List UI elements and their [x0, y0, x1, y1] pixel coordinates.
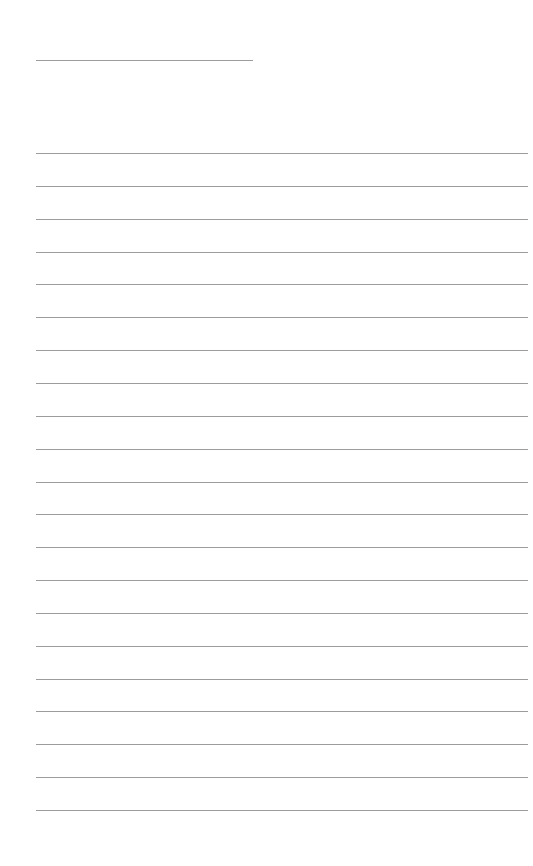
ruled-line: [36, 252, 528, 253]
ruled-line: [36, 153, 528, 154]
ruled-line: [36, 449, 528, 450]
ruled-line: [36, 186, 528, 187]
ruled-line: [36, 514, 528, 515]
ruled-line: [36, 383, 528, 384]
ruled-line: [36, 482, 528, 483]
ruled-line: [36, 580, 528, 581]
ruled-line: [36, 744, 528, 745]
ruled-line: [36, 810, 528, 811]
ruled-line: [36, 777, 528, 778]
ruled-line: [36, 284, 528, 285]
ruled-line: [36, 711, 528, 712]
ruled-line: [36, 416, 528, 417]
lined-paper-page: [0, 0, 533, 866]
ruled-lines-container: [0, 0, 533, 866]
ruled-line: [36, 679, 528, 680]
ruled-line: [36, 613, 528, 614]
ruled-line: [36, 219, 528, 220]
ruled-line: [36, 547, 528, 548]
ruled-line: [36, 317, 528, 318]
ruled-line: [36, 646, 528, 647]
ruled-line: [36, 350, 528, 351]
